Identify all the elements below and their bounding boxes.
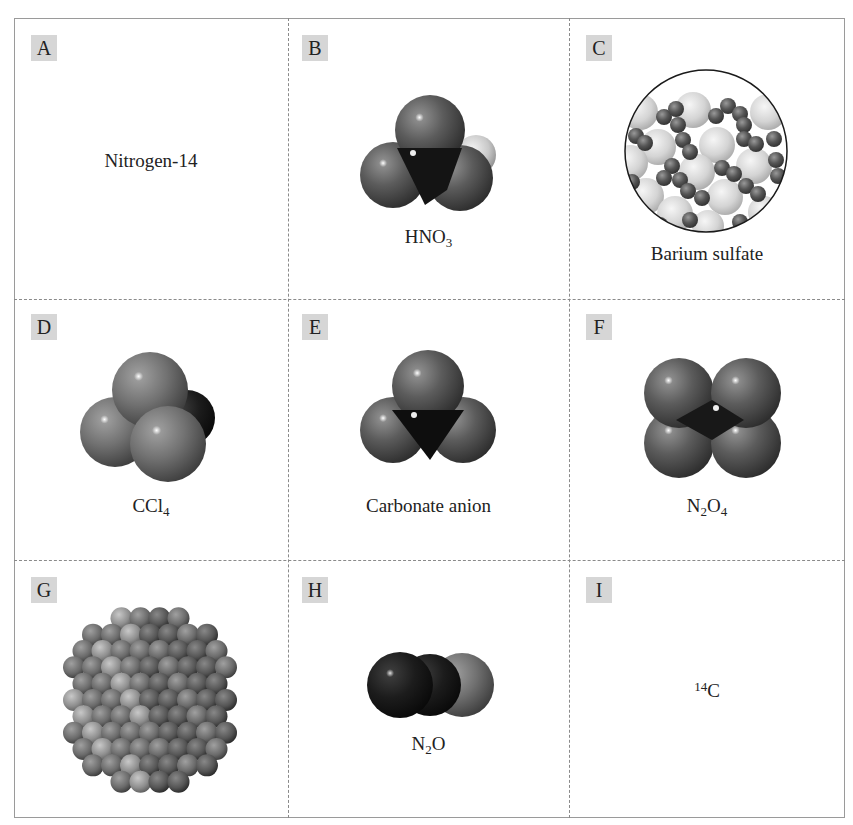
cell-i: I 14C (569, 560, 845, 818)
cell-label-badge: H (302, 577, 328, 603)
cell-label-badge: I (586, 577, 612, 603)
cell-label-badge: E (302, 314, 328, 340)
cell-caption: Carbonate anion (288, 495, 569, 517)
cell-e: E Carbonate anion (288, 299, 569, 560)
cell-caption: N2O4 (569, 495, 845, 517)
cell-a: A Nitrogen-14 (14, 18, 288, 299)
cell-label-badge: A (31, 35, 57, 61)
cell-f: F N2O4 (569, 299, 845, 560)
cell-b: B HNO3 (288, 18, 569, 299)
cell-label-badge: D (31, 314, 57, 340)
cell-caption: CCl4 (14, 495, 288, 517)
cell-label-badge: F (586, 314, 612, 340)
cell-caption: N2O (288, 733, 569, 755)
cell-caption: HNO3 (288, 226, 569, 248)
cell-d: D CCl4 (14, 299, 288, 560)
cell-g: G (14, 560, 288, 818)
cell-label-badge: C (586, 35, 612, 61)
cell-caption: Barium sulfate (569, 243, 845, 265)
cell-h: H N2O (288, 560, 569, 818)
cell-caption: Nitrogen-14 (14, 150, 288, 172)
cell-label-badge: B (302, 35, 328, 61)
cell-c: C Barium sulfate (569, 18, 845, 299)
cell-label-badge: G (31, 577, 57, 603)
cell-caption: 14C (569, 680, 845, 702)
